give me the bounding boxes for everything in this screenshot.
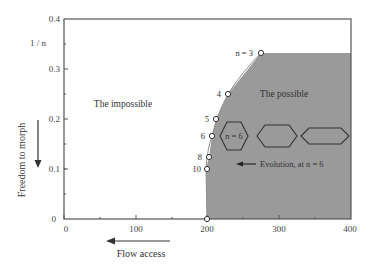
label-possible: The possible (260, 89, 308, 99)
point-n6 (209, 133, 214, 138)
arrow-down-icon (35, 120, 42, 168)
y-tick-0-4: 0.4 (49, 14, 61, 24)
y-secondary-label: 1 / n (30, 38, 47, 48)
point-label-n10: 10 (193, 164, 202, 174)
point-label-n8: 8 (198, 152, 202, 162)
point-n-inf (204, 216, 209, 221)
x-axis-title: Flow access (117, 248, 166, 259)
arrow-left-icon (106, 238, 170, 245)
y-tick-0: 0 (52, 214, 57, 224)
point-n8 (206, 154, 211, 159)
evolution-label: Evolution, at n = 6 (260, 159, 324, 169)
label-impossible: The impossible (94, 99, 152, 109)
point-n4 (225, 91, 230, 96)
hexagon-label: n = 6 (225, 131, 243, 141)
x-tick-100: 100 (129, 224, 143, 234)
x-tick-200: 200 (200, 224, 214, 234)
point-n3 (258, 50, 263, 55)
y-tick-0-3: 0.3 (49, 64, 61, 74)
point-label-n5: 5 (205, 114, 209, 124)
y-tick-0-1: 0.1 (49, 164, 60, 174)
y-axis-title: Freedom to morph (16, 123, 27, 197)
point-label-n4: 4 (217, 89, 222, 99)
point-label-n3: n = 3 (235, 48, 253, 58)
chart: 0 100 200 300 400 0 0.1 0.2 0.3 0.4 1 / … (0, 0, 371, 269)
point-n10 (204, 166, 209, 171)
y-tick-0-2: 0.2 (49, 114, 60, 124)
point-n5 (213, 116, 218, 121)
x-tick-400: 400 (343, 224, 357, 234)
point-label-n6: 6 (201, 131, 205, 141)
x-tick-300: 300 (272, 224, 286, 234)
x-tick-0: 0 (64, 224, 69, 234)
